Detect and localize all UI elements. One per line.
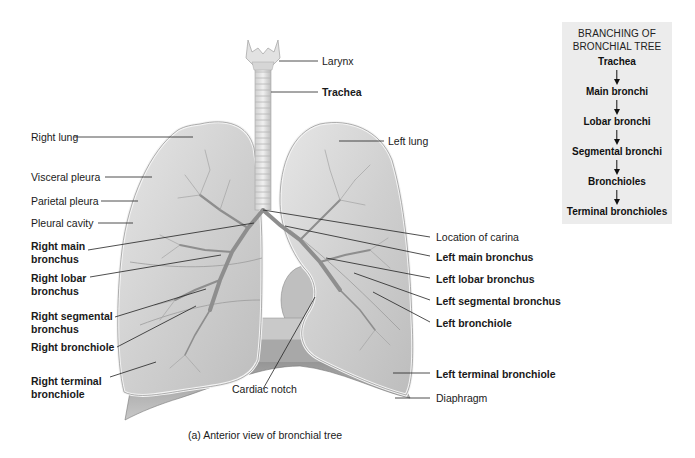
arrow-down-icon xyxy=(562,158,672,176)
label-trachea: Trachea xyxy=(322,86,362,99)
label-right-lung: Right lung xyxy=(31,131,78,144)
arrow-down-icon xyxy=(562,188,672,206)
label-left-main-bronchus: Left main bronchus xyxy=(436,251,533,264)
label-line: bronchus xyxy=(31,323,113,336)
larynx-shape xyxy=(246,40,280,70)
figure-caption: (a) Anterior view of bronchial tree xyxy=(188,429,342,441)
label-line: Right lobar xyxy=(31,272,86,285)
label-cardiac-notch: Cardiac notch xyxy=(232,383,297,396)
label-right-segmental-bronchus: Right segmental bronchus xyxy=(31,310,113,335)
arrow-down-icon xyxy=(562,98,672,116)
label-line: bronchiole xyxy=(31,388,102,401)
label-line: bronchus xyxy=(31,285,86,298)
sidebar-step-bronchioles: Bronchioles xyxy=(562,176,672,188)
label-right-lobar-bronchus: Right lobar bronchus xyxy=(31,272,86,297)
label-right-bronchiole: Right bronchiole xyxy=(31,341,114,354)
sidebar-step-trachea: Trachea xyxy=(562,56,672,68)
label-parietal-pleura: Parietal pleura xyxy=(31,195,99,208)
label-line: Right terminal xyxy=(31,375,102,388)
label-diaphragm: Diaphragm xyxy=(436,392,487,405)
label-left-lobar-bronchus: Left lobar bronchus xyxy=(436,273,535,286)
sidebar-step-segmental-bronchi: Segmental bronchi xyxy=(562,146,672,158)
bronchial-tree-figure: Right lung Visceral pleura Parietal pleu… xyxy=(0,0,695,458)
sidebar-title: BRANCHING OF BRONCHIAL TREE xyxy=(562,28,672,53)
sidebar-step-terminal-bronchioles: Terminal bronchioles xyxy=(562,206,672,218)
trachea-shape xyxy=(255,60,271,210)
label-larynx: Larynx xyxy=(322,55,354,68)
label-right-main-bronchus: Right main bronchus xyxy=(31,240,85,265)
label-left-lung: Left lung xyxy=(388,135,428,148)
right-lung-shape xyxy=(118,122,262,396)
label-line: bronchus xyxy=(31,253,85,266)
sidebar-step-lobar-bronchi: Lobar bronchi xyxy=(562,116,672,128)
sidebar-step-main-bronchi: Main bronchi xyxy=(562,86,672,98)
label-visceral-pleura: Visceral pleura xyxy=(31,171,100,184)
label-left-bronchiole: Left bronchiole xyxy=(436,317,512,330)
arrow-down-icon xyxy=(562,128,672,146)
sidebar-title-line: BRANCHING OF xyxy=(562,28,672,41)
branching-sidebar: BRANCHING OF BRONCHIAL TREE Trachea Main… xyxy=(562,22,672,224)
label-location-of-carina: Location of carina xyxy=(436,231,519,244)
arrow-down-icon xyxy=(562,68,672,86)
label-left-segmental-bronchus: Left segmental bronchus xyxy=(436,295,561,308)
label-pleural-cavity: Pleural cavity xyxy=(31,217,93,230)
label-line: Right main xyxy=(31,240,85,253)
label-right-terminal-bronchiole: Right terminal bronchiole xyxy=(31,375,102,400)
sidebar-title-line: BRONCHIAL TREE xyxy=(562,41,672,54)
label-left-terminal-bronchiole: Left terminal bronchiole xyxy=(436,368,556,381)
label-line: Right segmental xyxy=(31,310,113,323)
